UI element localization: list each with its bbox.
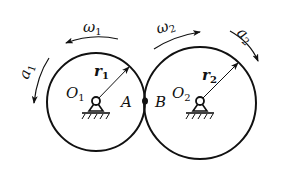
omega-2-label: ω2 [154,15,178,39]
radius-2-label: r2 [202,66,217,85]
accel-2-label: a2 [233,23,257,47]
radius-1-label: r1 [94,62,109,81]
contact-point-b-label: B [154,93,166,111]
gear-diagram: ω1 a1 r1 O1 A ω2 a2 r2 O2 B [0,0,281,177]
center-2-label: O2 [172,84,191,103]
contact-point-a-label: A [119,93,132,111]
wheel-2: ω2 a2 r2 O2 B [144,15,258,159]
accel-1-label: a1 [15,61,38,82]
contact-point-dot [142,98,148,105]
pivot-support-1-icon [82,97,110,119]
center-1-label: O1 [66,84,85,103]
omega-1-arrow [66,37,118,43]
omega-1-label: ω1 [83,18,102,37]
wheel-1: ω1 a1 r1 O1 A [15,18,145,151]
